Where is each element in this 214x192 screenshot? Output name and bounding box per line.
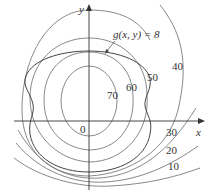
- level-label-10: 10: [168, 160, 180, 172]
- level-label-20: 20: [166, 144, 178, 156]
- origin-label: 0: [80, 123, 86, 135]
- level-label-50: 50: [147, 71, 159, 83]
- level-label-70: 70: [107, 89, 119, 101]
- y-axis-arrow-icon: [86, 4, 92, 11]
- y-axis-label: y: [78, 3, 84, 15]
- level-label-30: 30: [166, 126, 178, 138]
- constraint-curve: [25, 51, 151, 172]
- leader-arrow-icon: [105, 49, 109, 54]
- x-axis-arrow-icon: [198, 118, 205, 124]
- level-label-40: 40: [172, 60, 184, 72]
- x-axis-label: x: [195, 126, 201, 138]
- contour-diagram: y x 0 g(x, y) = 8 70 60 50 40 30 20 10: [0, 0, 214, 192]
- constraint-label: g(x, y) = 8: [113, 28, 160, 41]
- level-label-60: 60: [126, 81, 138, 93]
